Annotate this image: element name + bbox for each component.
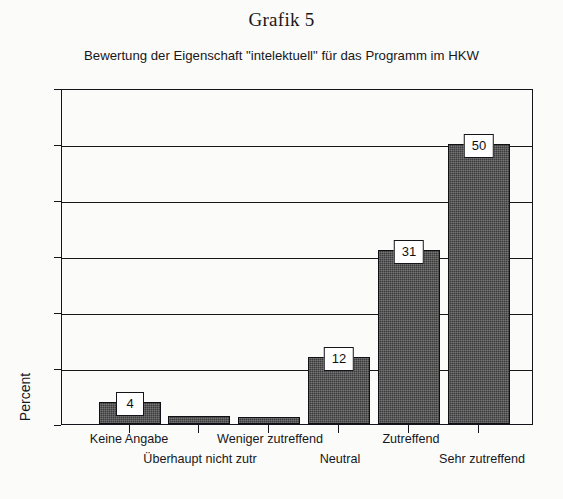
x-tick-mark-3 <box>338 425 339 433</box>
data-label-keine-angabe: 4 <box>116 392 144 416</box>
chart-page: Grafik 5 Bewertung der Eigenschaft "inte… <box>0 0 563 499</box>
bar-zutreffend[interactable] <box>378 250 440 424</box>
y-tick-mark-30 <box>54 257 61 258</box>
y-tick-mark-40 <box>54 201 61 202</box>
bar-ueberhaupt-nicht-zutr[interactable] <box>168 416 230 424</box>
y-tick-mark-60 <box>54 89 61 90</box>
chart-subtitle: Bewertung der Eigenschaft "intelektuell"… <box>0 48 563 63</box>
data-label-zutreffend: 31 <box>394 240 424 264</box>
x-category-label-neutral: Neutral <box>320 452 361 466</box>
x-category-label-sehr-zutreffend: Sehr zutreffend <box>439 452 525 466</box>
x-category-label-keine-angabe: Keine Angabe <box>90 432 168 446</box>
bar-weniger-zutreffend[interactable] <box>238 417 300 424</box>
plot-inner: 4 12 31 50 <box>62 90 532 424</box>
y-tick-mark-0 <box>54 425 61 426</box>
y-tick-mark-20 <box>54 313 61 314</box>
x-category-label-ueberhaupt-nicht-zutr: Überhaupt nicht zutr <box>143 452 256 466</box>
y-tick-mark-50 <box>54 145 61 146</box>
x-tick-mark-5 <box>478 425 479 433</box>
chart-title: Grafik 5 <box>0 9 563 31</box>
x-category-label-weniger-zutreffend: Weniger zutreffend <box>217 432 323 446</box>
y-axis-label: Percent <box>17 352 33 442</box>
y-tick-mark-10 <box>54 369 61 370</box>
data-label-sehr-zutreffend: 50 <box>464 134 494 158</box>
x-category-label-zutreffend: Zutreffend <box>382 432 439 446</box>
data-label-neutral: 12 <box>324 347 354 371</box>
bar-sehr-zutreffend[interactable] <box>448 144 510 424</box>
x-tick-mark-1 <box>198 425 199 433</box>
plot-area: 4 12 31 50 <box>61 89 533 425</box>
